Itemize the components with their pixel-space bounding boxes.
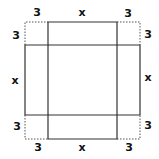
label-bottom-right-h: 3 xyxy=(125,141,133,154)
box-net-diagram: 3 x 3 3 3 x x 3 3 3 x 3 xyxy=(0,0,159,159)
net-outline xyxy=(25,22,140,139)
label-left-mid: x xyxy=(11,74,18,87)
label-top-right-h: 3 xyxy=(124,7,132,20)
corner-cutouts xyxy=(25,22,140,139)
corner-cutout-bottom-left xyxy=(25,115,48,139)
label-bottom-left-h: 3 xyxy=(34,141,42,154)
label-top-left-h: 3 xyxy=(33,6,41,19)
corner-cutout-bottom-right xyxy=(117,115,140,139)
label-bottom-mid: x xyxy=(78,141,85,154)
label-top-mid: x xyxy=(78,6,85,19)
corner-cutout-top-right xyxy=(117,22,140,45)
label-right-mid: x xyxy=(144,71,151,84)
label-top-right-v: 3 xyxy=(144,28,152,41)
label-bottom-left-v: 3 xyxy=(13,120,21,133)
cross-outline xyxy=(25,22,140,139)
label-top-left-v: 3 xyxy=(12,29,20,42)
label-bottom-right-v: 3 xyxy=(144,119,152,132)
corner-cutout-top-left xyxy=(25,22,48,45)
